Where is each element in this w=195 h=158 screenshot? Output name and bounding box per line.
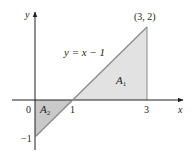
point-label: (3, 2) (134, 11, 156, 23)
curve-label: y = x − 1 (63, 46, 105, 58)
area-diagram: 0 1 3 −1 x y (3, 2) y = x − 1 A1 A2 (0, 0, 195, 158)
x-axis-label: x (177, 104, 183, 115)
tick-one: 1 (70, 104, 75, 115)
y-axis-label: y (24, 9, 30, 20)
tick-three: 3 (144, 104, 149, 115)
tick-neg-one: −1 (21, 133, 32, 144)
tick-origin: 0 (26, 104, 31, 115)
